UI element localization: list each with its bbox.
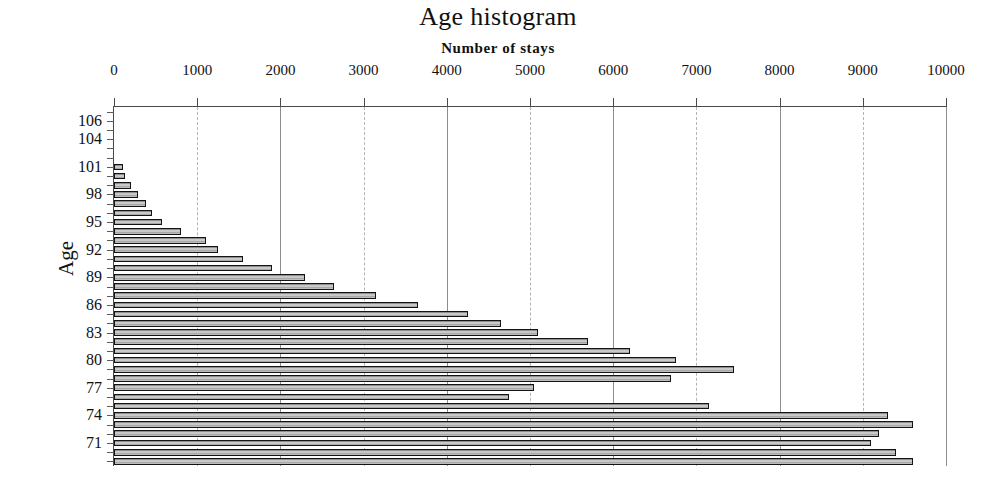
bar-age-70 — [114, 449, 896, 456]
y-tick-87 — [107, 296, 114, 297]
y-tick-89 — [107, 277, 114, 278]
y-tick-70 — [107, 452, 114, 453]
x-tick-label-1000: 1000 — [182, 62, 212, 79]
y-tick-74 — [107, 415, 114, 416]
bar-age-95 — [114, 219, 162, 226]
y-tick-75 — [107, 406, 114, 407]
x-tick-1000 — [197, 98, 198, 107]
x-tick-label-9000: 9000 — [848, 62, 878, 79]
bar-age-85 — [114, 311, 468, 318]
y-tick-81 — [107, 351, 114, 352]
bar-age-92 — [114, 246, 218, 253]
y-tick-label-104: 104 — [42, 130, 102, 148]
y-tick-88 — [107, 287, 114, 288]
x-tick-9000 — [863, 98, 864, 107]
bar-age-74 — [114, 412, 888, 419]
y-tick-71 — [107, 443, 114, 444]
chart-canvas: Age histogram Number of stays Age 010002… — [0, 0, 996, 487]
y-tick-94 — [107, 231, 114, 232]
y-tick-96 — [107, 213, 114, 214]
bar-age-91 — [114, 256, 243, 263]
x-tick-label-5000: 5000 — [515, 62, 545, 79]
y-tick-101 — [107, 167, 114, 168]
x-tick-label-2000: 2000 — [265, 62, 295, 79]
bar-age-77 — [114, 384, 534, 391]
bar-age-99 — [114, 182, 131, 189]
bar-age-98 — [114, 191, 138, 198]
y-tick-69 — [107, 461, 114, 462]
y-tick-106 — [107, 121, 114, 122]
y-tick-92 — [107, 250, 114, 251]
y-tick-107 — [107, 112, 114, 113]
y-tick-72 — [107, 434, 114, 435]
y-tick-102 — [107, 158, 114, 159]
y-tick-85 — [107, 314, 114, 315]
bar-age-69 — [114, 458, 913, 465]
bar-age-76 — [114, 394, 509, 401]
y-tick-97 — [107, 204, 114, 205]
x-tick-4000 — [447, 98, 448, 107]
bar-age-100 — [114, 173, 125, 180]
y-tick-95 — [107, 222, 114, 223]
y-tick-90 — [107, 268, 114, 269]
y-tick-86 — [107, 305, 114, 306]
x-tick-label-0: 0 — [110, 62, 118, 79]
y-tick-label-95: 95 — [42, 213, 102, 231]
x-tick-3000 — [364, 98, 365, 107]
chart-subtitle: Number of stays — [0, 40, 996, 57]
y-tick-label-71: 71 — [42, 434, 102, 452]
y-tick-label-74: 74 — [42, 406, 102, 424]
x-tick-label-4000: 4000 — [432, 62, 462, 79]
bar-age-96 — [114, 210, 152, 217]
x-tick-label-6000: 6000 — [598, 62, 628, 79]
y-tick-label-106: 106 — [42, 112, 102, 130]
bar-age-78 — [114, 375, 671, 382]
bar-age-90 — [114, 265, 272, 272]
y-tick-103 — [107, 148, 114, 149]
y-tick-label-77: 77 — [42, 379, 102, 397]
x-tick-5000 — [530, 98, 531, 107]
bar-age-84 — [114, 320, 501, 327]
y-tick-77 — [107, 388, 114, 389]
gridline-10000 — [946, 107, 947, 466]
x-tick-8000 — [780, 98, 781, 107]
y-tick-93 — [107, 240, 114, 241]
x-tick-label-10000: 10000 — [927, 62, 965, 79]
chart-title: Age histogram — [0, 2, 996, 32]
x-tick-7000 — [696, 98, 697, 107]
y-tick-99 — [107, 185, 114, 186]
x-tick-label-7000: 7000 — [681, 62, 711, 79]
y-tick-label-101: 101 — [42, 158, 102, 176]
y-tick-label-80: 80 — [42, 351, 102, 369]
bar-age-72 — [114, 430, 879, 437]
x-tick-2000 — [280, 98, 281, 107]
bar-age-81 — [114, 348, 630, 355]
y-tick-91 — [107, 259, 114, 260]
bar-age-71 — [114, 440, 871, 447]
x-tick-label-8000: 8000 — [765, 62, 795, 79]
plot-area: 0100020003000400050006000700080009000100… — [113, 106, 946, 466]
bar-age-89 — [114, 274, 305, 281]
bar-age-75 — [114, 403, 709, 410]
bar-age-94 — [114, 228, 181, 235]
bar-age-73 — [114, 421, 913, 428]
x-tick-0 — [114, 98, 115, 107]
y-tick-80 — [107, 360, 114, 361]
bar-age-93 — [114, 237, 206, 244]
y-tick-104 — [107, 139, 114, 140]
bar-age-86 — [114, 302, 418, 309]
bar-age-82 — [114, 338, 588, 345]
x-tick-10000 — [946, 98, 947, 107]
y-tick-label-92: 92 — [42, 241, 102, 259]
y-tick-83 — [107, 333, 114, 334]
bar-age-79 — [114, 366, 734, 373]
y-tick-label-83: 83 — [42, 324, 102, 342]
y-tick-105 — [107, 130, 114, 131]
y-tick-98 — [107, 194, 114, 195]
bar-age-97 — [114, 200, 146, 207]
y-tick-label-89: 89 — [42, 268, 102, 286]
y-tick-79 — [107, 369, 114, 370]
y-tick-label-98: 98 — [42, 185, 102, 203]
bar-age-87 — [114, 292, 376, 299]
y-tick-73 — [107, 425, 114, 426]
